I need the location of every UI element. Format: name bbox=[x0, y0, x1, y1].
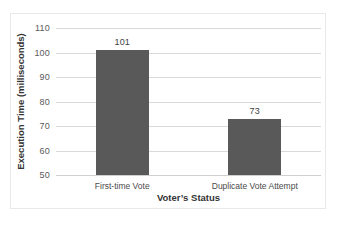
bar-value-label: 73 bbox=[250, 106, 260, 116]
bar[interactable] bbox=[96, 50, 149, 175]
image-top-margin bbox=[0, 0, 341, 12]
y-axis-tick-label: 90 bbox=[40, 72, 50, 82]
bar-value-label: 101 bbox=[114, 37, 130, 47]
plot-area: 1101009080706050101First-time Vote73Dupl… bbox=[56, 28, 321, 175]
gridline-50 bbox=[56, 175, 321, 176]
y-axis-tick-label: 60 bbox=[40, 146, 50, 156]
chart-frame: Execution Time (milliseconds) 1101009080… bbox=[10, 13, 326, 209]
y-axis-tick-label: 110 bbox=[35, 23, 50, 33]
bar[interactable] bbox=[228, 119, 281, 175]
y-axis-title-text: Execution Time (milliseconds) bbox=[15, 33, 26, 170]
y-axis-tick-label: 70 bbox=[40, 121, 50, 131]
y-axis-tick-label: 50 bbox=[40, 170, 50, 180]
y-axis-tick-label: 80 bbox=[40, 97, 50, 107]
x-axis-title: Voter’s Status bbox=[56, 192, 321, 203]
x-axis-category-label: Duplicate Vote Attempt bbox=[212, 181, 298, 191]
y-axis-tick-label: 100 bbox=[34, 48, 50, 58]
x-axis-category-label: First-time Vote bbox=[95, 181, 150, 191]
gridline-110 bbox=[56, 28, 321, 29]
y-axis-title: Execution Time (milliseconds) bbox=[13, 28, 27, 175]
